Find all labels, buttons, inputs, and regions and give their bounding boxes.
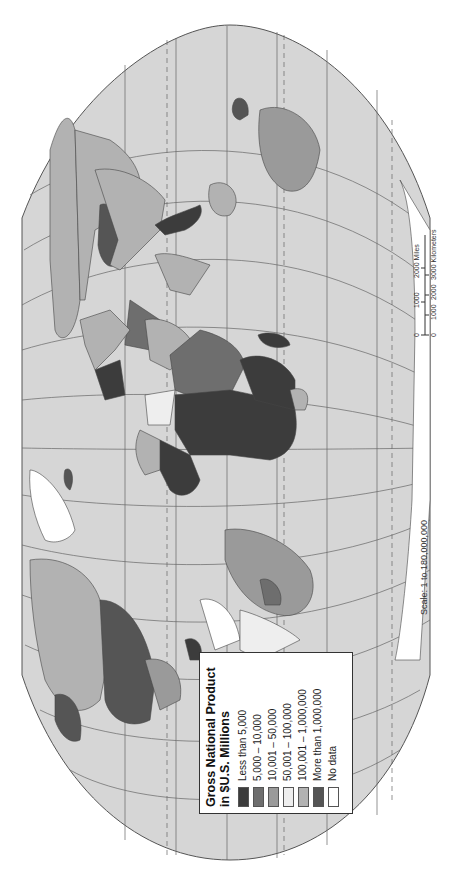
region-africa-libya (145, 390, 175, 425)
legend-item: 5,000 – 10,000 (253, 657, 265, 807)
scale-ratio: Scale: 1 to 180,000,000 (419, 520, 429, 615)
scale-miles-0: 0 (413, 333, 420, 337)
map-legend: Gross National Product in $U.S. Millions… (199, 652, 353, 814)
legend-swatch-icon (328, 787, 339, 807)
scale-km-2000: 2000 (430, 284, 437, 300)
legend-item: More than 1,000,000 (313, 657, 325, 807)
scale-km-0: 0 (430, 333, 437, 337)
scale-miles-2000: 2000 Miles (413, 244, 420, 278)
legend-item: 10,001 – 50,000 (268, 657, 280, 807)
legend-item: Less than 5,000 (238, 657, 250, 807)
map-scale: Scale: 1 to 180,000,000 (405, 330, 445, 630)
legend-item: 50,001 – 100,000 (283, 657, 295, 807)
legend-title: Gross National Product in $U.S. Millions (204, 657, 232, 807)
scale-km-3000: 3000 Kilometers (430, 229, 437, 280)
legend-item: 100,001 – 1,000,000 (298, 657, 310, 807)
legend-swatch-icon (298, 787, 309, 807)
scale-miles-1000: 1000 (413, 292, 420, 308)
scale-km-1000: 1000 (430, 304, 437, 320)
legend-swatch-icon (268, 787, 279, 807)
legend-swatch-icon (313, 787, 324, 807)
legend-item: No data (328, 657, 340, 807)
legend-swatch-icon (253, 787, 264, 807)
scale-bar: 0 1000 2000 Miles 0 1000 2000 3000 Kilom… (405, 190, 445, 340)
legend-swatch-icon (238, 787, 249, 807)
legend-swatch-icon (283, 787, 294, 807)
